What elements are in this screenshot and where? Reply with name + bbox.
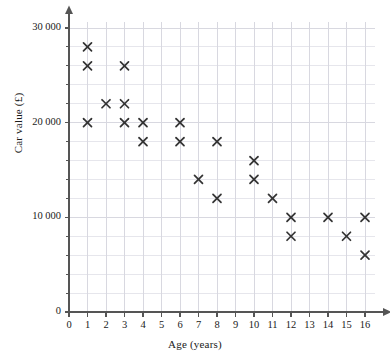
x-tick-label: 16	[355, 319, 375, 330]
scatter-chart: 010 00020 00030 000 01234567891011121314…	[0, 0, 390, 362]
x-tick-label: 4	[133, 319, 153, 330]
x-tick-label: 6	[170, 319, 190, 330]
data-points	[84, 43, 370, 259]
x-tick-label: 7	[189, 319, 209, 330]
x-tick-label: 0	[59, 319, 79, 330]
x-axis-title: Age (years)	[0, 338, 390, 350]
y-tick-label: 30 000	[0, 21, 61, 32]
x-tick-label: 5	[152, 319, 172, 330]
tick-marks	[65, 28, 366, 317]
x-axis-arrow-icon	[383, 308, 390, 316]
y-tick-label: 10 000	[0, 210, 61, 221]
x-tick-label: 14	[318, 319, 338, 330]
x-tick-label: 12	[281, 319, 301, 330]
x-tick-label: 3	[115, 319, 135, 330]
y-tick-label: 20 000	[0, 116, 61, 127]
minor-gridlines	[69, 47, 375, 293]
x-tick-label: 2	[96, 319, 116, 330]
x-tick-label: 8	[207, 319, 227, 330]
y-axis-title: Car value (£)	[12, 53, 24, 193]
x-tick-label: 1	[78, 319, 98, 330]
x-tick-label: 15	[337, 319, 357, 330]
x-tick-label: 13	[300, 319, 320, 330]
y-axis-arrow-icon	[65, 6, 73, 15]
x-tick-label: 9	[226, 319, 246, 330]
x-tick-label: 10	[244, 319, 264, 330]
y-tick-label: 0	[0, 305, 61, 316]
x-tick-label: 11	[263, 319, 283, 330]
